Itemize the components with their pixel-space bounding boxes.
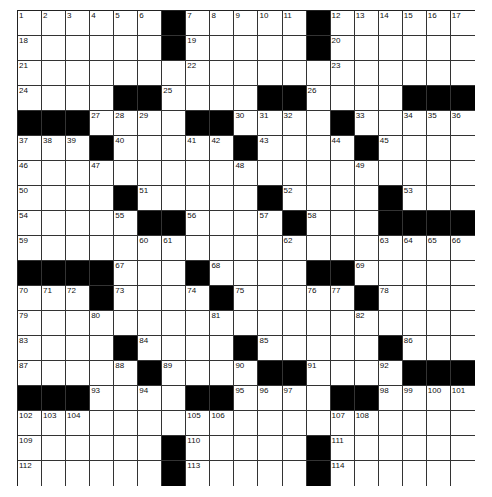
- grid-cell[interactable]: [114, 436, 138, 461]
- grid-cell[interactable]: 105: [186, 411, 210, 436]
- grid-cell[interactable]: 73: [114, 286, 138, 311]
- grid-cell[interactable]: [162, 286, 186, 311]
- grid-cell[interactable]: [403, 311, 427, 336]
- grid-cell[interactable]: [90, 436, 114, 461]
- grid-cell[interactable]: 97: [283, 386, 307, 411]
- grid-cell[interactable]: 19: [186, 36, 210, 61]
- grid-cell[interactable]: [307, 61, 331, 86]
- grid-cell[interactable]: 72: [66, 286, 90, 311]
- grid-cell[interactable]: [210, 361, 234, 386]
- grid-cell[interactable]: [355, 361, 379, 386]
- grid-cell[interactable]: [427, 336, 451, 361]
- grid-cell[interactable]: [210, 86, 234, 111]
- grid-cell[interactable]: 5: [114, 11, 138, 36]
- grid-cell[interactable]: 83: [18, 336, 42, 361]
- grid-cell[interactable]: [186, 236, 210, 261]
- grid-cell[interactable]: 3: [66, 11, 90, 36]
- grid-cell[interactable]: 49: [355, 161, 379, 186]
- grid-cell[interactable]: [258, 411, 282, 436]
- grid-cell[interactable]: [403, 411, 427, 436]
- grid-cell[interactable]: 75: [234, 286, 258, 311]
- grid-cell[interactable]: 1: [18, 11, 42, 36]
- grid-cell[interactable]: 61: [162, 236, 186, 261]
- grid-cell[interactable]: [162, 186, 186, 211]
- grid-cell[interactable]: [138, 311, 162, 336]
- grid-cell[interactable]: [234, 61, 258, 86]
- grid-cell[interactable]: 14: [379, 11, 403, 36]
- grid-cell[interactable]: 80: [90, 311, 114, 336]
- grid-cell[interactable]: [307, 186, 331, 211]
- grid-cell[interactable]: [234, 36, 258, 61]
- grid-cell[interactable]: 92: [379, 361, 403, 386]
- grid-cell[interactable]: [451, 186, 475, 211]
- grid-cell[interactable]: [451, 136, 475, 161]
- grid-cell[interactable]: 98: [379, 386, 403, 411]
- grid-cell[interactable]: [331, 336, 355, 361]
- grid-cell[interactable]: 34: [403, 111, 427, 136]
- grid-cell[interactable]: 27: [90, 111, 114, 136]
- grid-cell[interactable]: [66, 36, 90, 61]
- grid-cell[interactable]: 52: [283, 186, 307, 211]
- grid-cell[interactable]: [90, 211, 114, 236]
- grid-cell[interactable]: [427, 61, 451, 86]
- grid-cell[interactable]: [234, 311, 258, 336]
- grid-cell[interactable]: [283, 61, 307, 86]
- grid-cell[interactable]: [451, 161, 475, 186]
- grid-cell[interactable]: [66, 236, 90, 261]
- grid-cell[interactable]: [258, 286, 282, 311]
- grid-cell[interactable]: [307, 386, 331, 411]
- grid-cell[interactable]: 55: [114, 211, 138, 236]
- grid-cell[interactable]: [66, 186, 90, 211]
- grid-cell[interactable]: [234, 436, 258, 461]
- grid-cell[interactable]: 41: [186, 136, 210, 161]
- grid-cell[interactable]: [42, 461, 66, 486]
- grid-cell[interactable]: 66: [451, 236, 475, 261]
- grid-cell[interactable]: [210, 461, 234, 486]
- grid-cell[interactable]: 103: [42, 411, 66, 436]
- grid-cell[interactable]: [355, 186, 379, 211]
- grid-cell[interactable]: [42, 236, 66, 261]
- grid-cell[interactable]: 104: [66, 411, 90, 436]
- grid-cell[interactable]: [162, 411, 186, 436]
- grid-cell[interactable]: [42, 161, 66, 186]
- grid-cell[interactable]: 84: [138, 336, 162, 361]
- grid-cell[interactable]: 24: [18, 86, 42, 111]
- grid-cell[interactable]: 43: [258, 136, 282, 161]
- grid-cell[interactable]: 25: [162, 86, 186, 111]
- grid-cell[interactable]: [427, 36, 451, 61]
- grid-cell[interactable]: 20: [331, 36, 355, 61]
- grid-cell[interactable]: [355, 86, 379, 111]
- grid-cell[interactable]: 64: [403, 236, 427, 261]
- grid-cell[interactable]: [331, 361, 355, 386]
- grid-cell[interactable]: [162, 111, 186, 136]
- grid-cell[interactable]: 13: [355, 11, 379, 36]
- grid-cell[interactable]: [42, 211, 66, 236]
- grid-cell[interactable]: 18: [18, 36, 42, 61]
- grid-cell[interactable]: [258, 61, 282, 86]
- grid-cell[interactable]: 32: [283, 111, 307, 136]
- grid-cell[interactable]: [90, 461, 114, 486]
- grid-cell[interactable]: [427, 186, 451, 211]
- grid-cell[interactable]: [90, 361, 114, 386]
- grid-cell[interactable]: [42, 311, 66, 336]
- grid-cell[interactable]: 9: [234, 11, 258, 36]
- grid-cell[interactable]: [90, 411, 114, 436]
- grid-cell[interactable]: 81: [210, 311, 234, 336]
- grid-cell[interactable]: [186, 161, 210, 186]
- grid-cell[interactable]: [114, 311, 138, 336]
- grid-cell[interactable]: 65: [427, 236, 451, 261]
- grid-cell[interactable]: [379, 36, 403, 61]
- grid-cell[interactable]: [42, 36, 66, 61]
- grid-cell[interactable]: [427, 461, 451, 486]
- grid-cell[interactable]: 111: [331, 436, 355, 461]
- grid-cell[interactable]: [114, 386, 138, 411]
- grid-cell[interactable]: 31: [258, 111, 282, 136]
- grid-cell[interactable]: [427, 161, 451, 186]
- grid-cell[interactable]: [403, 36, 427, 61]
- grid-cell[interactable]: 101: [451, 386, 475, 411]
- grid-cell[interactable]: [283, 286, 307, 311]
- grid-cell[interactable]: 112: [18, 461, 42, 486]
- grid-cell[interactable]: [283, 311, 307, 336]
- grid-cell[interactable]: 39: [66, 136, 90, 161]
- grid-cell[interactable]: [283, 261, 307, 286]
